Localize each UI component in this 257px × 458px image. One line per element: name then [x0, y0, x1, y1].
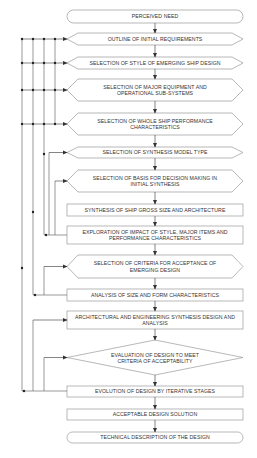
node-perceived-need — [67, 10, 243, 23]
node-analysis-size-form — [67, 289, 243, 301]
node-criteria-acceptance — [67, 255, 243, 278]
node-synthesis-model-type — [67, 147, 243, 158]
ship-design-flowchart: Perceived Need Outline of Initial Requir… — [0, 0, 257, 458]
node-outline-initial-requirements — [67, 33, 243, 45]
node-technical-description — [67, 432, 243, 443]
node-architectural-engineering — [67, 311, 243, 329]
junction-dots — [21, 38, 56, 392]
node-major-equipment — [67, 79, 243, 101]
flowchart-canvas — [0, 0, 257, 458]
feedback-arrows — [22, 39, 67, 358]
node-style-emerging-design — [67, 57, 243, 69]
node-evaluation-diamond — [67, 340, 243, 375]
node-basis-decision-making — [67, 170, 243, 192]
feedback-lines — [22, 39, 67, 391]
node-exploration-impact — [67, 226, 243, 244]
node-synthesis-gross-size — [67, 204, 243, 216]
node-acceptable-solution — [67, 409, 243, 420]
node-whole-ship-performance — [67, 113, 243, 135]
node-evolution-iterative — [67, 386, 243, 397]
